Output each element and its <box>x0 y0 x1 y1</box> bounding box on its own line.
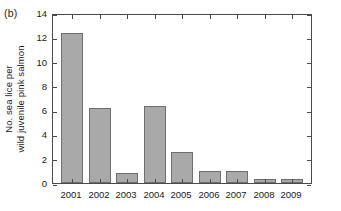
x-tick-2005 <box>182 179 183 183</box>
x-tick-top-2007 <box>237 15 238 19</box>
x-tick-2008 <box>265 179 266 183</box>
y-tick-label-0: 0 <box>25 179 47 189</box>
x-tick-2007 <box>237 179 238 183</box>
y-axis-title-line-1: No. sea lice per <box>4 65 14 133</box>
plot-area <box>52 14 312 184</box>
x-tick-2006 <box>210 179 211 183</box>
y-tick-10 <box>53 63 57 64</box>
x-tick-top-2003 <box>127 15 128 19</box>
x-tick-2003 <box>127 179 128 183</box>
y-axis-title: No. sea lice per wild juvenile pink salm… <box>0 14 26 184</box>
x-tick-2001 <box>72 179 73 183</box>
y-tick-4 <box>53 136 57 137</box>
y-tick-label-4: 4 <box>25 130 47 140</box>
y-tick-label-14: 14 <box>25 9 47 19</box>
x-tick-top-2008 <box>265 15 266 19</box>
x-tick-top-2002 <box>100 15 101 19</box>
x-tick-2002 <box>100 179 101 183</box>
x-tick-label-2009: 2009 <box>271 189 311 200</box>
y-tick-right-8 <box>307 87 311 88</box>
x-tick-top-2009 <box>292 15 293 19</box>
y-tick-label-6: 6 <box>25 106 47 116</box>
y-tick-label-10: 10 <box>25 58 47 68</box>
x-tick-top-2005 <box>182 15 183 19</box>
x-tick-top-2001 <box>72 15 73 19</box>
y-tick-0 <box>53 185 57 186</box>
y-tick-right-2 <box>307 160 311 161</box>
y-tick-8 <box>53 87 57 88</box>
bar-2002 <box>89 108 111 183</box>
y-tick-right-14 <box>307 15 311 16</box>
y-tick-right-12 <box>307 39 311 40</box>
y-tick-right-4 <box>307 136 311 137</box>
x-tick-top-2006 <box>210 15 211 19</box>
y-tick-right-6 <box>307 112 311 113</box>
y-tick-6 <box>53 112 57 113</box>
y-tick-right-0 <box>307 185 311 186</box>
x-tick-2004 <box>155 179 156 183</box>
bar-series <box>53 15 311 183</box>
y-tick-label-8: 8 <box>25 82 47 92</box>
bar-2004 <box>144 106 166 183</box>
y-tick-label-2: 2 <box>25 155 47 165</box>
x-tick-top-2004 <box>155 15 156 19</box>
x-tick-2009 <box>292 179 293 183</box>
y-tick-12 <box>53 39 57 40</box>
y-tick-label-12: 12 <box>25 33 47 43</box>
figure-panel-b: (b) No. sea lice per wild juvenile pink … <box>0 0 341 211</box>
y-tick-14 <box>53 15 57 16</box>
y-tick-right-10 <box>307 63 311 64</box>
y-tick-2 <box>53 160 57 161</box>
bar-2001 <box>61 33 83 183</box>
